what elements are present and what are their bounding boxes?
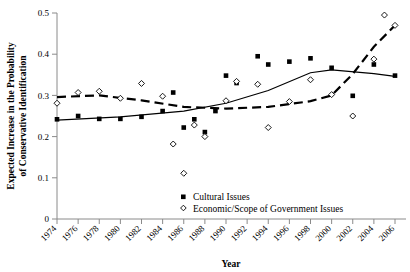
y-tick-label: 0 <box>45 214 50 224</box>
data-point-cultural-issues <box>160 109 165 114</box>
x-tick-label: 1996 <box>271 223 291 243</box>
data-point-cultural-issues <box>393 73 398 78</box>
y-axis-label: Expected Increase in the Probability of … <box>6 42 28 190</box>
data-point-economic-issues <box>54 100 60 106</box>
x-tick-label: 1990 <box>208 223 228 243</box>
data-point-economic-issues <box>96 88 102 94</box>
x-tick-label: 1982 <box>123 223 143 243</box>
x-tick-label: 1984 <box>144 223 164 243</box>
data-point-cultural-issues <box>76 114 81 119</box>
data-point-economic-issues <box>181 170 187 176</box>
x-tick-label: 2006 <box>377 223 397 243</box>
y-axis-label-line1: Expected Increase in the Probability <box>6 42 16 190</box>
legend-label-economic-issues: Economic/Scope of Government Issues <box>193 204 343 214</box>
legend-label-cultural-issues: Cultural Issues <box>193 192 250 202</box>
data-point-cultural-issues <box>97 117 102 122</box>
data-point-economic-issues <box>170 141 176 147</box>
y-tick-label: 0.3 <box>38 91 50 101</box>
y-tick-label: 0.2 <box>38 132 49 142</box>
data-point-cultural-issues <box>118 117 123 122</box>
x-tick-label: 2002 <box>334 223 354 243</box>
trend-line-group <box>57 25 395 120</box>
x-tick-label: 1974 <box>39 223 59 243</box>
y-axis-label-line2: of Conservative Identification <box>18 55 28 177</box>
x-tick-label: 1994 <box>250 223 270 243</box>
data-point-cultural-issues <box>224 73 229 78</box>
data-point-economic-issues <box>308 77 314 83</box>
data-point-cultural-issues <box>171 90 176 95</box>
legend: Cultural Issues Economic/Scope of Govern… <box>181 192 344 214</box>
data-point-economic-issues <box>381 12 387 18</box>
data-point-cultural-issues <box>181 125 186 130</box>
data-point-cultural-issues <box>192 117 197 122</box>
data-point-cultural-issues <box>372 62 377 67</box>
data-point-economic-issues <box>255 81 261 87</box>
y-tick-label: 0.4 <box>38 49 50 59</box>
data-point-economic-issues <box>350 113 356 119</box>
data-point-cultural-issues <box>287 59 292 64</box>
data-point-cultural-issues <box>266 62 271 67</box>
trend-line-economic-issues <box>57 25 395 108</box>
x-tick-label: 1980 <box>102 223 122 243</box>
x-tick-label: 1992 <box>229 223 249 243</box>
x-tick-label: 1988 <box>186 223 206 243</box>
x-tick-group: 1974197619781980198219841986198819901992… <box>39 219 397 243</box>
data-point-cultural-issues <box>255 54 260 59</box>
x-axis-label: Year <box>222 259 242 269</box>
data-point-cultural-issues <box>329 66 334 71</box>
y-tick-label: 0.1 <box>38 173 49 183</box>
scatter-plot: 00.10.20.30.40.5 19741976197819801982198… <box>0 0 410 272</box>
data-point-economic-issues <box>75 90 81 96</box>
data-point-cultural-issues <box>55 117 60 122</box>
x-tick-label: 1986 <box>165 223 185 243</box>
x-tick-label: 1978 <box>81 223 101 243</box>
y-tick-label: 0.5 <box>38 8 50 18</box>
legend-marker-economic-issues <box>181 205 187 211</box>
data-point-cultural-issues <box>308 56 313 61</box>
data-point-economic-issues <box>139 80 145 86</box>
x-tick-label: 1998 <box>292 223 312 243</box>
data-point-cultural-issues <box>350 94 355 99</box>
data-point-cultural-issues <box>139 115 144 120</box>
data-point-economic-issues <box>265 125 271 131</box>
data-point-cultural-issues <box>213 109 218 114</box>
data-point-group <box>54 12 398 176</box>
x-tick-label: 1976 <box>60 223 80 243</box>
x-tick-label: 2004 <box>355 223 375 243</box>
y-tick-group: 00.10.20.30.40.5 <box>38 8 57 224</box>
chart-figure: 00.10.20.30.40.5 19741976197819801982198… <box>0 0 410 272</box>
data-point-economic-issues <box>191 122 197 128</box>
legend-marker-cultural-issues <box>181 195 186 200</box>
x-tick-label: 2000 <box>313 223 333 243</box>
data-point-economic-issues <box>371 56 377 62</box>
data-point-economic-issues <box>117 95 123 101</box>
data-point-economic-issues <box>202 134 208 140</box>
data-point-economic-issues <box>160 93 166 99</box>
